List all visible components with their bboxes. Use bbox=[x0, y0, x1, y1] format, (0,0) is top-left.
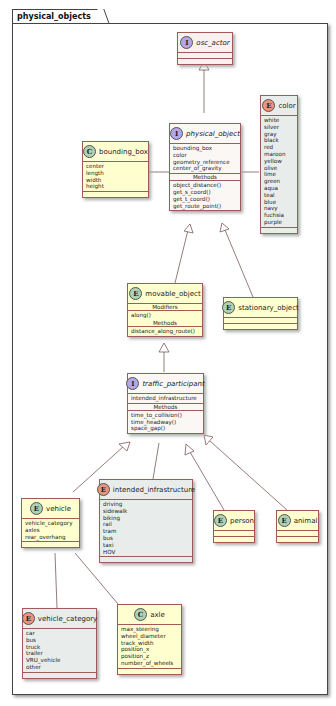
enum-value: green bbox=[264, 178, 294, 185]
field: wheel_diameter bbox=[121, 633, 178, 640]
enum-value: fuchsia bbox=[264, 212, 294, 219]
enum-value: trailer bbox=[26, 650, 93, 657]
section-label: Modifiers bbox=[128, 304, 202, 311]
class-name: intended_infrastructure bbox=[113, 486, 195, 494]
enum-value: red bbox=[264, 144, 294, 151]
class-osc-actor[interactable]: Iosc_actor bbox=[177, 32, 233, 65]
class-name: movable_object bbox=[145, 290, 200, 298]
enum-value: other bbox=[26, 664, 93, 671]
class-stationary-object[interactable]: Estationary_object bbox=[223, 297, 298, 330]
enum-value: white bbox=[264, 117, 294, 124]
class-name: vehicle_category bbox=[38, 615, 97, 623]
class-name: stationary_object bbox=[238, 304, 298, 312]
enum-value: bus bbox=[103, 535, 189, 542]
enum-value: lime bbox=[264, 171, 294, 178]
enum-value: maroon bbox=[264, 151, 294, 158]
enum-vehicle-category[interactable]: Evehicle_category car bus truck trailer … bbox=[22, 608, 97, 679]
field: bounding_box bbox=[173, 145, 237, 152]
class-name: animal bbox=[294, 517, 318, 525]
enum-value: yellow bbox=[264, 158, 294, 165]
field: number_of_wheels bbox=[121, 660, 178, 667]
class-name: osc_actor bbox=[196, 39, 229, 47]
field: center bbox=[86, 163, 145, 170]
class-physical-object[interactable]: Iphysical_object bounding_box color geom… bbox=[169, 123, 241, 211]
enum-value: bus bbox=[26, 637, 93, 644]
field: color bbox=[173, 152, 237, 159]
class-name: color bbox=[278, 102, 295, 110]
field: max_steering bbox=[121, 626, 178, 633]
field: position_z bbox=[121, 653, 178, 660]
enum-value: olive bbox=[264, 165, 294, 172]
enum-value: HOV bbox=[103, 549, 189, 556]
enum-value: aqua bbox=[264, 185, 294, 192]
method: time_to_collision() bbox=[131, 412, 200, 419]
field: vehicle_category bbox=[25, 520, 76, 527]
enum-value: truck bbox=[26, 644, 93, 651]
field: width bbox=[86, 177, 145, 184]
class-name: physical_object bbox=[186, 130, 240, 138]
method: time_headway() bbox=[131, 419, 200, 426]
enum-icon: E bbox=[97, 483, 110, 496]
enum-value: teal bbox=[264, 192, 294, 199]
field: center_of_gravity bbox=[173, 165, 237, 172]
enum-value: VRU_vehicle bbox=[26, 657, 93, 664]
class-axle[interactable]: Caxle max_steering wheel_diameter track_… bbox=[117, 604, 182, 675]
enum-value: rail bbox=[103, 521, 189, 528]
class-icon: C bbox=[83, 145, 96, 158]
enum-value: sidewalk bbox=[103, 508, 189, 515]
section-label: Methods bbox=[128, 404, 203, 411]
enum-value: blue bbox=[264, 199, 294, 206]
class-animal[interactable]: Eanimal bbox=[276, 510, 319, 543]
enum-icon: E bbox=[22, 612, 35, 625]
entity-icon: E bbox=[129, 287, 142, 300]
class-name: axle bbox=[150, 611, 165, 619]
class-traffic-participant[interactable]: Itraffic_participant intended_infrastruc… bbox=[127, 373, 204, 434]
enum-values: white silver gray black red maroon yello… bbox=[261, 116, 297, 228]
class-name: vehicle bbox=[46, 505, 71, 513]
class-icon: C bbox=[134, 608, 147, 621]
enum-value: navy bbox=[264, 205, 294, 212]
field: track_width bbox=[121, 640, 178, 647]
enum-value: black bbox=[264, 137, 294, 144]
class-name: traffic_participant bbox=[142, 380, 204, 388]
field: axles bbox=[25, 527, 76, 534]
method: distance_along_route() bbox=[131, 328, 199, 335]
enum-value: silver bbox=[264, 124, 294, 131]
enum-intended-infrastructure[interactable]: Eintended_infrastructure driving sidewal… bbox=[99, 479, 193, 563]
enum-value: driving bbox=[103, 501, 189, 508]
field: intended_infrastructure bbox=[131, 395, 200, 402]
entity-icon: E bbox=[222, 301, 235, 314]
enum-icon: E bbox=[262, 99, 275, 112]
class-person[interactable]: Eperson bbox=[213, 510, 255, 543]
entity-icon: E bbox=[214, 514, 227, 527]
entity-icon: E bbox=[278, 514, 291, 527]
interface-icon: I bbox=[170, 127, 183, 140]
enum-color[interactable]: Ecolor white silver gray black red maroo… bbox=[260, 95, 298, 234]
interface-icon: I bbox=[180, 36, 193, 49]
enum-value: taxi bbox=[103, 542, 189, 549]
field: length bbox=[86, 170, 145, 177]
class-name: bounding_box bbox=[99, 148, 148, 156]
interface-icon: I bbox=[126, 377, 139, 390]
section-label: Methods bbox=[170, 174, 240, 181]
section-label: Methods bbox=[128, 320, 202, 327]
enum-value: biking bbox=[103, 515, 189, 522]
class-name: person bbox=[230, 517, 254, 525]
field: geometry_reference bbox=[173, 159, 237, 166]
class-vehicle[interactable]: Evehicle vehicle_category axles rear_ove… bbox=[21, 498, 80, 548]
modifier: along() bbox=[131, 312, 199, 319]
class-movable-object[interactable]: Emovable_object Modifiers along() Method… bbox=[127, 283, 203, 337]
enum-value: gray bbox=[264, 131, 294, 138]
enum-value: purple bbox=[264, 219, 294, 226]
enum-value: tram bbox=[103, 528, 189, 535]
field: rear_overhang bbox=[25, 534, 76, 541]
method: space_gap() bbox=[131, 425, 200, 432]
field: position_x bbox=[121, 646, 178, 653]
method: object_distance() bbox=[173, 182, 237, 189]
enum-value: car bbox=[26, 630, 93, 637]
method: get_t_coord() bbox=[173, 196, 237, 203]
class-bounding-box[interactable]: Cbounding_box center length width height bbox=[82, 141, 149, 198]
entity-icon: E bbox=[30, 502, 43, 515]
method: get_s_coord() bbox=[173, 189, 237, 196]
field: height bbox=[86, 183, 145, 190]
